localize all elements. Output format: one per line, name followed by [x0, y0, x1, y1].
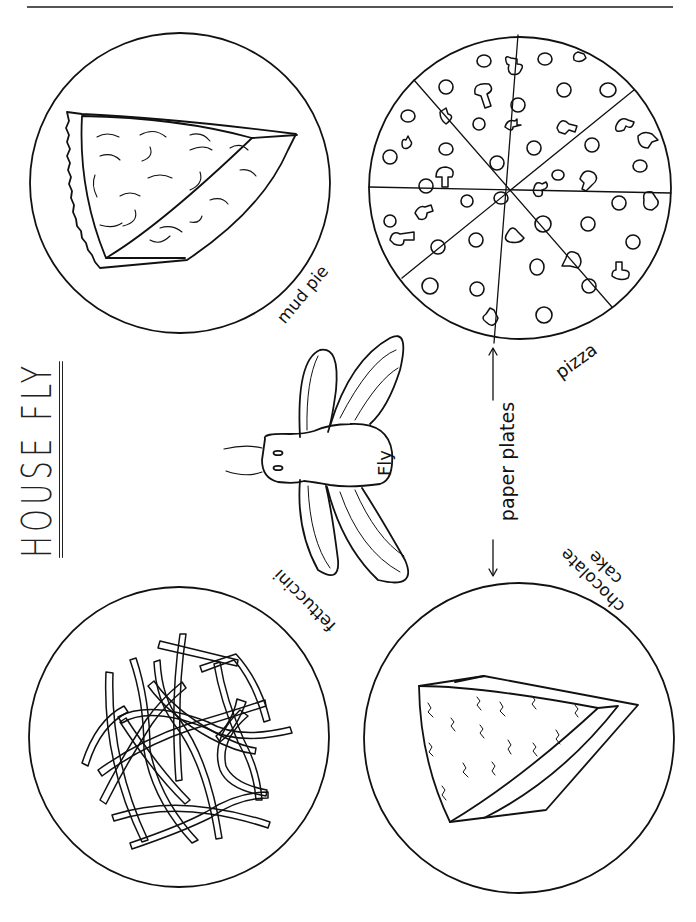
fettuccini-noodles-icon	[82, 634, 292, 849]
cake-slice-icon	[419, 676, 638, 822]
paper-plates-label: paper plates	[498, 402, 517, 521]
fly-label: Fly	[376, 450, 394, 476]
page-title-text: HOUSE FLY	[16, 362, 63, 558]
mud-pie-plate-circle	[30, 33, 330, 333]
fettuccini-plate	[29, 587, 329, 887]
mud-pie-plate	[30, 33, 330, 333]
fly-eye-right	[274, 466, 283, 470]
chocolate-cake-plate	[364, 583, 674, 893]
fly-antenna-top	[224, 446, 262, 449]
craft-page: HOUSE FLY mud pie pizza Fly paper plates…	[0, 0, 696, 922]
cake-squiggles	[428, 696, 578, 800]
fly-antenna-bottom	[226, 471, 262, 475]
chocolate-cake-plate-circle	[364, 583, 674, 893]
fly-wing-upper-right	[330, 336, 403, 426]
pizza-plate	[369, 35, 671, 343]
fettuccini-plate-circle	[29, 587, 329, 887]
fly-wing-lower-left	[299, 480, 338, 575]
page-title: HOUSE FLY	[14, 310, 64, 610]
illustration-canvas	[0, 0, 696, 922]
fly-wing-lower-right	[327, 487, 408, 583]
mud-pie-slice-icon	[66, 112, 297, 268]
fly-eye-left	[274, 451, 283, 455]
